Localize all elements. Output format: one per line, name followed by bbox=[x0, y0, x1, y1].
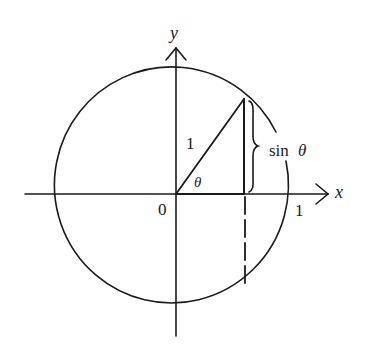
sine-label-var: θ bbox=[298, 141, 306, 160]
x-intercept-label: 1 bbox=[295, 201, 304, 220]
sine-label: sin θ bbox=[269, 141, 306, 160]
sine-label-func: sin bbox=[269, 141, 289, 160]
radius-label: 1 bbox=[186, 134, 195, 153]
origin-label: 0 bbox=[158, 200, 167, 219]
unit-circle-diagram: y x 0 1 1 θ sin θ bbox=[0, 0, 372, 364]
angle-label: θ bbox=[194, 174, 202, 190]
sine-brace-icon bbox=[249, 101, 258, 192]
x-axis-label: x bbox=[334, 182, 343, 202]
y-axis-label: y bbox=[168, 23, 178, 43]
